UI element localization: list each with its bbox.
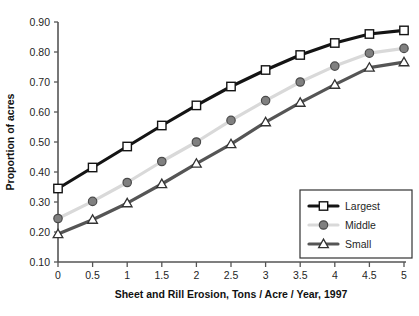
x-tick-label: 3 (263, 269, 269, 281)
y-tick-label: 0.20 (30, 226, 51, 238)
x-tick-label: 1.5 (154, 269, 169, 281)
data-point-middle-0 (54, 214, 62, 222)
data-point-middle-7 (296, 78, 304, 86)
data-point-largest-2 (123, 142, 131, 150)
line-chart: 0.100.200.300.400.500.600.700.800.9000.5… (0, 0, 419, 316)
y-tick-label: 0.30 (30, 196, 51, 208)
data-point-middle-3 (158, 157, 166, 165)
data-point-middle-2 (123, 178, 131, 186)
data-point-middle-5 (227, 116, 235, 124)
x-tick-label: 3.5 (293, 269, 308, 281)
x-tick-label: 4 (332, 269, 338, 281)
y-tick-label: 0.60 (30, 106, 51, 118)
x-axis-title: Sheet and Rill Erosion, Tons / Acre / Ye… (115, 288, 348, 300)
data-point-middle-8 (331, 62, 339, 70)
data-point-largest-0 (54, 184, 62, 192)
y-tick-label: 0.80 (30, 46, 51, 58)
data-point-largest-1 (88, 163, 96, 171)
data-point-largest-5 (227, 82, 235, 90)
data-point-largest-9 (365, 30, 373, 38)
data-point-middle-4 (192, 138, 200, 146)
chart-container: 0.100.200.300.400.500.600.700.800.9000.5… (0, 0, 419, 316)
x-tick-label: 0.5 (85, 269, 100, 281)
data-point-largest-3 (158, 121, 166, 129)
y-tick-label: 0.40 (30, 166, 51, 178)
data-point-largest-10 (400, 26, 408, 34)
y-tick-label: 0.10 (30, 256, 51, 268)
y-tick-label: 0.90 (30, 16, 51, 28)
x-tick-label: 1 (124, 269, 130, 281)
legend-label-small: Small (345, 238, 371, 250)
x-tick-label: 0 (55, 269, 61, 281)
x-tick-label: 5 (401, 269, 407, 281)
y-axis-title: Proportion of acres (4, 93, 16, 190)
data-point-largest-8 (331, 39, 339, 47)
legend-label-middle: Middle (345, 219, 376, 231)
legend-marker-middle (319, 221, 327, 229)
series-line-largest (58, 30, 404, 188)
x-tick-label: 4.5 (362, 269, 377, 281)
x-tick-label: 2 (193, 269, 199, 281)
y-tick-label: 0.50 (30, 136, 51, 148)
legend-marker-largest (319, 202, 327, 210)
y-tick-label: 0.70 (30, 76, 51, 88)
data-point-middle-6 (261, 96, 269, 104)
legend-label-largest: Largest (345, 200, 380, 212)
data-point-middle-10 (400, 44, 408, 52)
data-point-largest-4 (192, 101, 200, 109)
data-point-middle-1 (88, 197, 96, 205)
x-tick-label: 2.5 (224, 269, 239, 281)
data-point-largest-7 (296, 51, 304, 59)
data-point-middle-9 (365, 49, 373, 57)
data-point-largest-6 (261, 66, 269, 74)
